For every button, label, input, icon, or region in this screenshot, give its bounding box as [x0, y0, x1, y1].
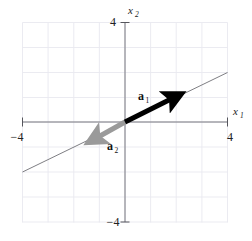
y-axis-tick-label-max: 4	[110, 15, 116, 29]
plot-svg: −4 4 4 −4 x 1 x 2 a 1 a 2	[0, 0, 252, 241]
vector-a2-label-text: a	[107, 139, 113, 153]
y-axis-label-subscript: 2	[135, 10, 139, 19]
y-axis-label-text: x	[127, 4, 133, 16]
x-axis-label-subscript: 1	[240, 111, 244, 120]
y-axis-tick-label-min: −4	[107, 215, 120, 229]
vector-plot-figure: −4 4 4 −4 x 1 x 2 a 1 a 2	[0, 0, 252, 241]
x-axis-label-text: x	[232, 105, 238, 117]
vector-a2-label-subscript: 2	[115, 146, 119, 155]
x-axis-tick-label-min: −4	[11, 130, 24, 144]
x-axis-tick-label-max: 4	[227, 130, 233, 144]
vector-a1-label-text: a	[138, 89, 144, 103]
vector-a1-label-subscript: 1	[146, 96, 150, 105]
